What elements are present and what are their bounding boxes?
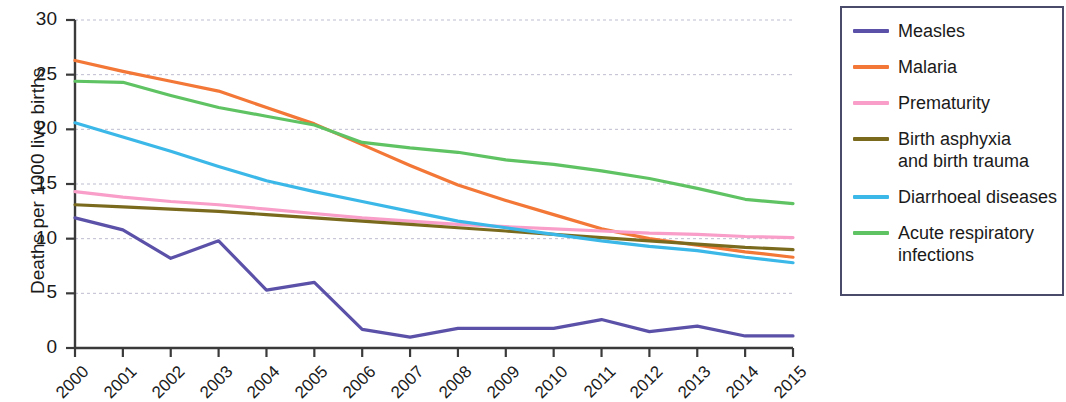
series-line-measles [75,218,793,337]
plot-area [0,0,830,402]
legend-color-swatch [853,29,889,33]
legend-item-label: Acute respiratory infections [895,222,1058,266]
legend-color-swatch [853,101,889,105]
line-chart-figure: Deaths per 1000 live births 051015202530… [0,0,830,402]
legend-item[interactable]: Prematurity [853,92,1058,114]
legend-swatch-wrap [853,222,895,235]
legend-item[interactable]: Measles [853,20,1058,42]
series-line-birth-asphyxia-and-birth-trauma [75,205,793,250]
legend-color-swatch [853,231,889,235]
legend-item[interactable]: Birth asphyxia and birth trauma [853,128,1058,172]
series-line-malaria [75,60,793,257]
legend-item[interactable]: Malaria [853,56,1058,78]
legend-item-label: Birth asphyxia and birth trauma [895,128,1058,172]
chart-screenshot: Deaths per 1000 live births 051015202530… [0,0,1066,402]
legend: MeaslesMalariaPrematurityBirth asphyxia … [840,6,1064,296]
legend-swatch-wrap [853,92,895,105]
series-line-prematurity [75,192,793,238]
legend-item-label: Prematurity [895,92,1058,114]
legend-item[interactable]: Diarrhoeal diseases [853,186,1058,208]
legend-item-label: Malaria [895,56,1058,78]
legend-color-swatch [853,195,889,199]
series-line-acute-respiratory-infections [75,81,793,203]
legend-item-label: Measles [895,20,1058,42]
legend-color-swatch [853,137,889,141]
legend-item-label: Diarrhoeal diseases [895,186,1058,208]
legend-swatch-wrap [853,20,895,33]
legend-swatch-wrap [853,56,895,69]
legend-items: MeaslesMalariaPrematurityBirth asphyxia … [853,20,1058,280]
legend-item[interactable]: Acute respiratory infections [853,222,1058,266]
legend-swatch-wrap [853,128,895,141]
legend-swatch-wrap [853,186,895,199]
legend-color-swatch [853,65,889,69]
